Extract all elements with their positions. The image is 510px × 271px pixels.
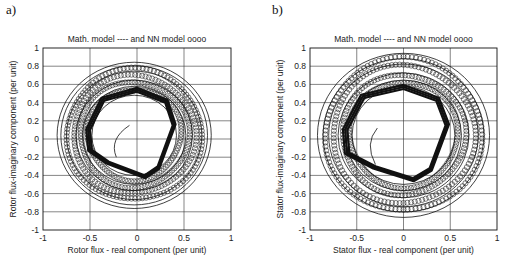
nn-marker — [420, 197, 425, 202]
nn-marker — [101, 79, 106, 84]
nn-marker — [464, 135, 469, 140]
chart-a: -1-0.500.51-1-0.8-0.6-0.4-0.200.20.40.60… — [8, 34, 234, 255]
y-tick-label: -1 — [298, 225, 306, 235]
nn-marker — [101, 185, 106, 190]
nn-marker — [335, 110, 340, 115]
x-axis-label: Rotor flux - real component (per unit) — [68, 245, 207, 255]
nn-marker — [188, 109, 193, 114]
y-tick-label: 0.4 — [27, 98, 39, 108]
y-tick-label: -0.4 — [291, 170, 306, 180]
nn-marker — [191, 149, 196, 154]
y-tick-label: -0.4 — [24, 170, 39, 180]
nn-marker — [334, 154, 339, 159]
nn-marker — [468, 110, 473, 115]
nn-marker — [334, 114, 339, 119]
nn-marker — [185, 144, 190, 149]
y-tick-label: 0.8 — [294, 61, 306, 71]
nn-marker — [406, 192, 411, 197]
chart-title: Math. model ---- and NN model oooo — [334, 34, 473, 44]
nn-marker — [332, 147, 337, 152]
x-tick-label: -0.5 — [83, 233, 98, 243]
nn-marker — [471, 151, 476, 156]
nn-marker — [192, 146, 197, 151]
nn-marker — [456, 158, 461, 163]
nn-marker — [105, 77, 110, 82]
nn-marker — [413, 74, 418, 79]
nn-marker — [118, 73, 123, 78]
y-tick-label: -0.2 — [291, 152, 306, 162]
nn-marker — [143, 74, 148, 79]
nn-marker — [378, 198, 383, 203]
y-tick-label: 0.4 — [294, 98, 306, 108]
nn-marker — [140, 196, 145, 201]
nn-marker — [105, 186, 110, 191]
nn-marker — [333, 117, 338, 122]
nn-marker — [410, 191, 415, 196]
nn-marker — [159, 80, 164, 85]
nn-marker — [122, 72, 127, 77]
y-axis-label: Stator flux-imaginary component (per uni… — [275, 59, 285, 218]
y-tick-label: -0.8 — [24, 207, 39, 217]
nn-marker — [472, 121, 477, 126]
nn-marker — [189, 155, 194, 160]
nn-marker — [470, 113, 475, 118]
nn-marker — [108, 76, 113, 81]
nn-marker — [115, 74, 120, 79]
nn-marker — [187, 135, 192, 140]
x-tick-label: 0 — [135, 233, 140, 243]
nn-marker — [408, 200, 413, 205]
nn-marker — [191, 115, 196, 120]
nn-marker — [193, 125, 198, 130]
nn-marker — [426, 78, 431, 83]
nn-marker — [193, 122, 198, 127]
x-tick-label: 0.5 — [178, 233, 190, 243]
nn-marker — [457, 155, 462, 160]
x-tick-label: 1 — [229, 233, 234, 243]
y-tick-label: 0.8 — [27, 61, 39, 71]
y-tick-label: 0.6 — [294, 79, 306, 89]
y-tick-label: 1 — [301, 43, 306, 53]
nn-marker — [412, 199, 417, 204]
nn-marker — [154, 85, 159, 90]
nn-marker — [416, 198, 421, 203]
nn-marker — [111, 75, 116, 80]
nn-marker — [108, 187, 113, 192]
nn-marker — [337, 103, 342, 108]
nn-marker — [151, 84, 156, 89]
nn-marker — [462, 142, 467, 147]
nn-marker — [420, 188, 425, 193]
nn-marker — [421, 182, 426, 187]
nn-marker — [420, 76, 425, 81]
charts-canvas: -1-0.500.51-1-0.8-0.6-0.4-0.200.20.40.60… — [0, 0, 510, 271]
nn-marker — [332, 143, 337, 148]
nn-marker — [348, 99, 353, 104]
nn-marker — [423, 196, 428, 201]
y-tick-label: -1 — [31, 225, 39, 235]
nn-marker — [129, 179, 134, 184]
nn-marker — [415, 184, 420, 189]
nn-marker — [142, 184, 147, 189]
nn-marker — [66, 119, 71, 124]
nn-marker — [471, 117, 476, 122]
x-tick-label: 0 — [401, 233, 406, 243]
nn-marker — [460, 149, 465, 154]
nn-marker — [336, 107, 341, 112]
nn-marker — [460, 184, 465, 189]
nn-marker — [385, 183, 390, 188]
nn-marker — [332, 121, 337, 126]
nn-marker — [187, 159, 192, 164]
nn-marker — [132, 179, 137, 184]
nn-marker — [150, 76, 155, 81]
nn-marker — [189, 112, 194, 117]
y-tick-label: -0.6 — [291, 189, 306, 199]
nn-marker — [81, 112, 86, 117]
nn-marker — [423, 77, 428, 82]
nn-marker — [77, 160, 82, 165]
nn-marker — [139, 184, 144, 189]
nn-marker — [455, 135, 460, 140]
y-tick-label: 0 — [34, 134, 39, 144]
x-tick-label: -0.5 — [349, 233, 364, 243]
x-tick-label: 1 — [495, 233, 500, 243]
nn-marker — [151, 68, 156, 73]
nn-marker — [416, 75, 421, 80]
